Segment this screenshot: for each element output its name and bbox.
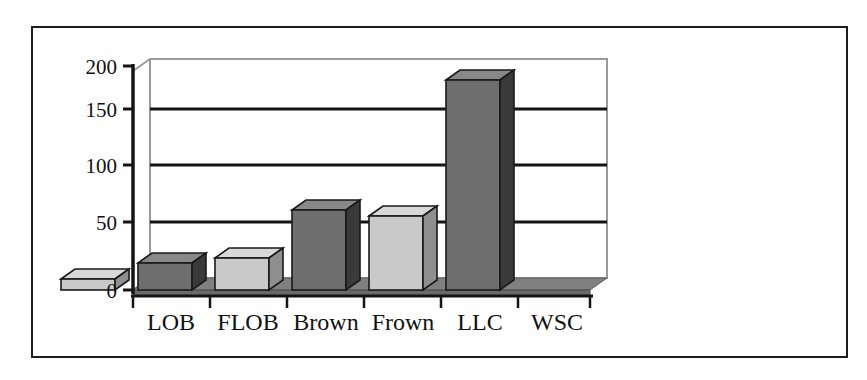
y-tick-label-50: 50: [96, 211, 117, 235]
bar-llc[interactable]: [369, 206, 437, 290]
x-label-frown: Frown: [372, 309, 435, 335]
figure-container: 200 150 100 50 0 LOB FLOB Br: [0, 0, 867, 380]
bar-frown-side: [346, 200, 360, 290]
bar-wsc[interactable]: [446, 70, 514, 290]
x-label-llc: LLC: [457, 309, 502, 335]
bar-flob[interactable]: [138, 253, 206, 290]
chart-frame-border: 200 150 100 50 0 LOB FLOB Br: [31, 26, 848, 358]
bar-wsc-front: [446, 80, 500, 290]
x-label-brown: Brown: [293, 309, 358, 335]
x-axis: [131, 296, 593, 308]
y-tick-label-0: 0: [107, 279, 118, 303]
bar-frown-front: [292, 210, 346, 290]
y-tick-label-200: 200: [86, 55, 118, 79]
bar-llc-front: [369, 216, 423, 290]
y-tick-labels: 200 150 100 50 0: [86, 55, 118, 303]
bar-frown[interactable]: [292, 200, 360, 290]
bar-llc-side: [423, 206, 437, 290]
bar-flob-front: [138, 263, 192, 290]
y-tick-label-150: 150: [86, 98, 118, 122]
bar-brown[interactable]: [215, 248, 283, 290]
bar-brown-front: [215, 258, 269, 290]
y-tick-label-100: 100: [86, 154, 118, 178]
x-label-wsc: WSC: [531, 309, 583, 335]
wall-depth-edge-top: [133, 59, 150, 71]
bar-chart: 200 150 100 50 0 LOB FLOB Br: [33, 28, 846, 356]
x-category-labels: LOB FLOB Brown Frown LLC WSC: [147, 309, 583, 335]
bar-lob[interactable]: [61, 269, 129, 290]
x-label-flob: FLOB: [217, 309, 278, 335]
bar-wsc-side: [500, 70, 514, 290]
y-axis: [123, 64, 133, 294]
x-label-lob: LOB: [147, 309, 195, 335]
